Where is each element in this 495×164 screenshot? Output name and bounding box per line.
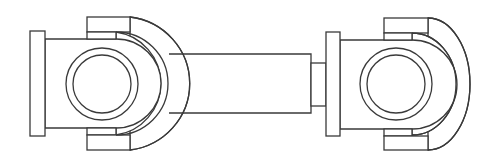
drive-shaft: [169, 54, 326, 113]
right-yoke-ear-bottom-step: [384, 129, 412, 136]
right-universal-joint: [326, 18, 470, 150]
left-bearing-cap-inner: [73, 55, 131, 113]
right-yoke-ear-top: [384, 18, 428, 33]
left-yoke-ear-top: [87, 17, 130, 32]
left-flange: [30, 31, 45, 136]
left-yoke-ear-top-step: [87, 32, 116, 39]
left-yoke-ear-bottom-step: [87, 128, 116, 135]
universal-joint-drawing: [0, 0, 495, 164]
left-universal-joint: [30, 17, 190, 150]
right-yoke-ear-top-step: [384, 33, 412, 40]
right-flange: [326, 32, 340, 136]
right-bearing-cap-inner: [367, 55, 425, 113]
left-yoke-ear-bottom: [87, 135, 130, 150]
shaft-neck: [311, 63, 326, 106]
right-yoke-ear-bottom: [384, 136, 428, 150]
